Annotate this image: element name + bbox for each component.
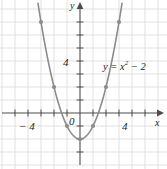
y-tick-label-4: 4 bbox=[63, 57, 69, 68]
x-axis-label: x bbox=[155, 118, 159, 128]
data-point bbox=[39, 20, 43, 24]
graph-figure: − 4 4 0 4 x y y = x2 − 2 bbox=[0, 0, 167, 169]
origin-label: 0 bbox=[69, 116, 75, 127]
equation-tail: − 2 bbox=[128, 61, 146, 72]
data-point bbox=[117, 20, 121, 24]
curve-equation-label: y = x2 − 2 bbox=[103, 60, 146, 72]
data-point bbox=[104, 85, 108, 89]
data-point bbox=[52, 85, 56, 89]
x-tick-label-neg4: − 4 bbox=[19, 121, 35, 132]
x-axis bbox=[2, 109, 164, 116]
y-axis-label: y bbox=[70, 1, 74, 11]
data-point bbox=[91, 124, 95, 128]
x-axis-arrow bbox=[157, 109, 164, 116]
equation-base: y = x bbox=[103, 61, 125, 72]
coordinate-plane bbox=[0, 0, 167, 169]
x-tick-label-pos4: 4 bbox=[122, 121, 128, 132]
data-point bbox=[78, 137, 82, 141]
y-axis-arrow bbox=[77, 2, 84, 9]
